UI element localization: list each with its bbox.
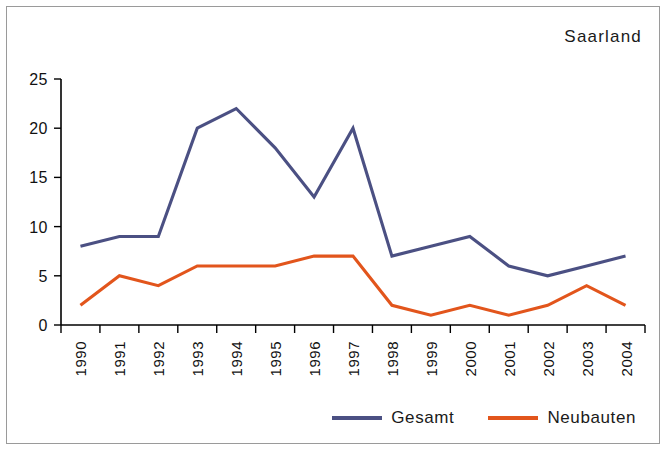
y-tick-label-5: 5 (39, 268, 48, 285)
x-axis (61, 325, 645, 333)
x-tick-labels: 1990199119921993199419951996199719981999… (72, 341, 634, 376)
y-tick-label-10: 10 (29, 219, 48, 236)
x-tick-label-1990: 1990 (72, 341, 89, 376)
y-tick-label-20: 20 (29, 120, 48, 137)
y-tick-label-15: 15 (29, 169, 48, 186)
y-axis: 0510152025 (29, 71, 61, 334)
x-tick-label-1991: 1991 (111, 341, 128, 376)
legend-item-gesamt[interactable]: Gesamt (332, 408, 454, 428)
x-tick-label-1997: 1997 (345, 341, 362, 376)
chart-page: Saarland 0510152025 19901991199219931994… (0, 0, 666, 450)
x-tick-label-1999: 1999 (423, 341, 440, 376)
x-tick-label-1996: 1996 (306, 341, 323, 376)
x-tick-label-2002: 2002 (540, 341, 557, 376)
legend-swatch-icon (332, 416, 382, 420)
x-tick-label-2000: 2000 (462, 341, 479, 376)
legend-swatch-icon (488, 416, 538, 420)
series-lines (80, 109, 625, 316)
series-line-gesamt (80, 109, 625, 276)
x-tick-label-1994: 1994 (228, 341, 245, 376)
x-tick-label-1992: 1992 (150, 341, 167, 376)
legend-item-neubauten[interactable]: Neubauten (488, 408, 636, 428)
y-tick-label-25: 25 (29, 71, 48, 88)
legend-label: Gesamt (391, 408, 454, 428)
y-tick-label-0: 0 (39, 317, 48, 334)
series-line-neubauten (80, 256, 625, 315)
chart-legend: GesamtNeubauten (0, 408, 666, 428)
x-tick-label-2001: 2001 (501, 341, 518, 376)
x-tick-label-2004: 2004 (618, 341, 635, 376)
line-chart-plot: 0510152025 19901991199219931994199519961… (0, 0, 666, 450)
legend-label: Neubauten (547, 408, 636, 428)
x-tick-label-2003: 2003 (579, 341, 596, 376)
x-tick-label-1995: 1995 (267, 341, 284, 376)
x-tick-label-1998: 1998 (384, 341, 401, 376)
x-tick-label-1993: 1993 (189, 341, 206, 376)
